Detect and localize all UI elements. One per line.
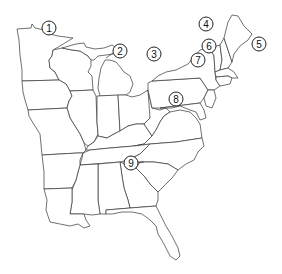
marker-label: 4: [203, 19, 209, 30]
marker-label: 8: [173, 94, 179, 105]
marker-label: 2: [117, 46, 123, 57]
marker-7[interactable]: 7: [191, 53, 205, 67]
state-michigan-lower: [98, 60, 133, 96]
state-iowa: [22, 80, 72, 110]
marker-label: 9: [128, 158, 134, 169]
state-florida: [106, 206, 180, 260]
state-indiana: [97, 95, 120, 138]
marker-label: 3: [151, 49, 157, 60]
marker-label: 7: [195, 55, 201, 66]
state-outlines: [17, 15, 252, 260]
marker-label: 6: [206, 41, 212, 52]
marker-6[interactable]: 6: [202, 39, 216, 53]
marker-2[interactable]: 2: [113, 44, 127, 58]
marker-label: 1: [46, 23, 52, 34]
marker-8[interactable]: 8: [169, 92, 183, 106]
marker-4[interactable]: 4: [199, 17, 213, 31]
marker-3[interactable]: 3: [147, 47, 161, 61]
marker-1[interactable]: 1: [42, 21, 56, 35]
marker-label: 5: [256, 39, 262, 50]
eastern-us-map: 1 2 3 4 5 6 7 8: [0, 0, 282, 274]
marker-9[interactable]: 9: [124, 156, 138, 170]
marker-5[interactable]: 5: [252, 37, 266, 51]
